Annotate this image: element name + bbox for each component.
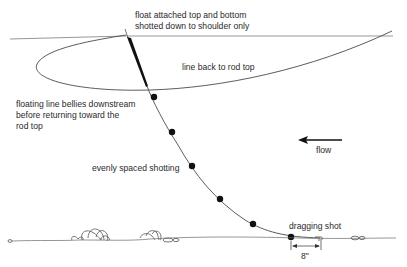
belly-note-line1: floating line bellies downstream <box>16 99 135 109</box>
dimension-marker <box>291 241 321 250</box>
weed-icon <box>140 231 179 242</box>
dragging-shot-icon <box>288 234 294 240</box>
shotting-label: evenly spaced shotting <box>92 163 180 173</box>
dragging-shot-label: dragging shot <box>289 221 342 231</box>
float-note-line1: float attached top and bottom <box>135 10 246 20</box>
measurement-label: 8" <box>301 251 309 261</box>
shot-icon <box>217 196 223 202</box>
shot-icon <box>189 163 195 169</box>
pebble-icon <box>8 240 12 243</box>
shot-icon <box>250 221 256 227</box>
water-surface-line <box>10 36 393 39</box>
rod-line-loop <box>36 31 392 90</box>
weed-icon <box>72 229 110 241</box>
shot-icon <box>169 129 175 135</box>
flow-arrow-icon <box>298 136 342 144</box>
belly-note-line2: before returning toward the <box>16 110 119 120</box>
belly-note-line3: rod top <box>16 121 43 131</box>
float-note-line2: shotted down to shoulder only <box>135 21 250 31</box>
float-icon <box>125 29 148 87</box>
flow-label: flow <box>316 145 332 155</box>
terminal-tackle-line <box>147 86 320 238</box>
fishing-rig-diagram: float attached top and bottom shotted do… <box>0 0 407 267</box>
river-bed-line <box>12 237 396 241</box>
rod-line-label: line back to rod top <box>182 62 255 72</box>
shot-icon <box>151 94 157 100</box>
